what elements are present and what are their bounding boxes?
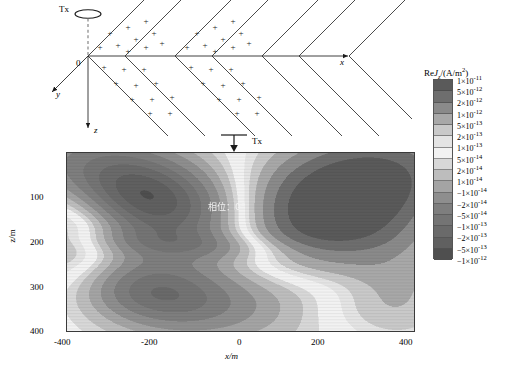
colorbar-swatches [433, 79, 453, 259]
colorbar-tick-label: 1×10-14 [457, 176, 482, 187]
tx-label-schematic: Tx [59, 5, 69, 14]
svg-text:+: + [169, 92, 174, 102]
wavefront-lines [88, 0, 412, 136]
colorbar-swatch [434, 215, 452, 226]
colorbar-tick-label: −1×10-12 [457, 255, 487, 266]
svg-text:+: + [151, 28, 156, 38]
colorbar-swatch [434, 249, 452, 260]
svg-text:+: + [228, 64, 233, 74]
svg-text:+: + [133, 34, 138, 44]
xtick-0: 0 [237, 337, 242, 347]
colorbar-swatch [434, 204, 452, 215]
ytick-200: 200 [30, 237, 44, 247]
colorbar-swatch [434, 148, 452, 159]
svg-text:+: + [212, 46, 217, 56]
colorbar-tick-label: −5×10-14 [457, 210, 487, 221]
svg-text:+: + [254, 108, 259, 118]
svg-text:+: + [230, 16, 235, 26]
colorbar-swatch [434, 125, 452, 136]
axis-y-line [52, 56, 88, 92]
svg-text:+: + [236, 94, 241, 104]
svg-text:+: + [133, 80, 138, 90]
svg-text:+: + [129, 94, 134, 104]
colorbar-tick-label: 1×10-12 [457, 109, 482, 120]
svg-text:+: + [184, 42, 189, 52]
tx-label-plot: Tx [252, 136, 262, 146]
colorbar-tick-label: 1×10-13 [457, 142, 482, 153]
colorbar-swatch [434, 103, 452, 114]
colorbar-tick-label: −5×10-13 [457, 244, 487, 255]
xaxis-label: x/m [225, 351, 238, 361]
axis-x-label: x [340, 58, 344, 67]
schematic-diagram: ++ ++ ++ ++ ++ ++ ++ ++ ++ ++ + ++ ++ ++… [0, 0, 420, 150]
svg-text:+: + [212, 22, 217, 32]
colorbar-tick-label: −1×10-14 [457, 187, 487, 198]
svg-text:+: + [234, 108, 239, 118]
svg-text:+: + [188, 62, 193, 72]
svg-text:+: + [240, 78, 245, 88]
xtick-neg400: -400 [54, 337, 71, 347]
contour-plot: 相位：0° [66, 152, 415, 332]
colorbar: ReJz/(A/m2) 1×10-115×10-122×10-121×10-12… [424, 66, 509, 266]
svg-text:+: + [202, 40, 207, 50]
yaxis-label-text: z/m [7, 229, 17, 243]
svg-text:+: + [147, 108, 152, 118]
colorbar-swatch [434, 238, 452, 249]
xaxis-label-text: x/m [225, 351, 238, 361]
svg-text:+: + [256, 92, 261, 102]
schematic-svg: ++ ++ ++ ++ ++ ++ ++ ++ ++ ++ + ++ ++ ++… [0, 0, 420, 150]
svg-text:+: + [125, 22, 130, 32]
contour-canvas [66, 152, 415, 332]
figure-root: ++ ++ ++ ++ ++ ++ ++ ++ ++ ++ + ++ ++ ++… [0, 0, 509, 372]
axis-z-label: z [94, 126, 98, 135]
svg-text:+: + [107, 28, 112, 38]
svg-text:+: + [200, 78, 205, 88]
svg-text:+: + [220, 34, 225, 44]
colorbar-swatch [434, 91, 452, 102]
colorbar-title-prefix: Re [424, 68, 434, 78]
tx-marker-icon [218, 132, 250, 154]
svg-text:+: + [97, 42, 102, 52]
origin-label: 0 [76, 59, 81, 68]
phase-annotation: 相位：0° [208, 200, 245, 213]
colorbar-swatch [434, 170, 452, 181]
svg-text:+: + [121, 64, 126, 74]
colorbar-swatch [434, 114, 452, 125]
colorbar-swatch [434, 181, 452, 192]
colorbar-swatch [434, 159, 452, 170]
svg-text:+: + [208, 64, 213, 74]
colorbar-labels: 1×10-115×10-122×10-121×10-125×10-132×10-… [457, 79, 509, 259]
ytick-400: 400 [30, 326, 44, 336]
svg-text:+: + [143, 42, 148, 52]
ytick-100: 100 [30, 192, 44, 202]
svg-text:+: + [141, 64, 146, 74]
colorbar-swatch [434, 136, 452, 147]
svg-text:+: + [246, 38, 251, 48]
colorbar-tick-label: 2×10-14 [457, 165, 482, 176]
xtick-neg200: -200 [141, 337, 158, 347]
svg-text:+: + [153, 78, 158, 88]
colorbar-tick-label: −1×10-13 [457, 221, 487, 232]
yaxis-label: z/m [7, 226, 17, 246]
colorbar-tick-label: 2×10-12 [457, 97, 482, 108]
xtick-200: 200 [311, 337, 325, 347]
colorbar-tick-label: 5×10-13 [457, 120, 482, 131]
svg-text:+: + [230, 42, 235, 52]
colorbar-swatch [434, 226, 452, 237]
svg-text:+: + [216, 94, 221, 104]
colorbar-swatch [434, 193, 452, 204]
svg-text:+: + [113, 78, 118, 88]
colorbar-swatch [434, 80, 452, 91]
colorbar-tick-label: 1×10-11 [457, 75, 482, 86]
tx-loop-icon [75, 10, 101, 18]
colorbar-tick-label: 5×10-14 [457, 154, 482, 165]
ytick-300: 300 [30, 282, 44, 292]
xtick-400: 400 [399, 337, 413, 347]
svg-text:+: + [125, 46, 130, 56]
colorbar-tick-label: 5×10-12 [457, 86, 482, 97]
svg-text:+: + [159, 38, 164, 48]
svg-text:+: + [220, 80, 225, 90]
svg-text:+: + [115, 40, 120, 50]
axis-y-label: y [56, 90, 60, 99]
colorbar-tick-label: −2×10-14 [457, 199, 487, 210]
